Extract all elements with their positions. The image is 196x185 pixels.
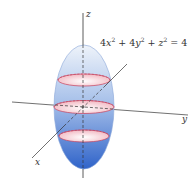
ellipsoid-equation: 4x2 + 4y2 + z2 = 4 [100, 36, 187, 48]
z-axis-label: z [86, 9, 91, 19]
cross-section-bottom [59, 130, 109, 142]
eq-rhs: = 4 [167, 37, 187, 48]
x-axis-label: x [35, 157, 40, 167]
eq-plus-2: + [144, 37, 158, 48]
ellipsoid-diagram [0, 0, 196, 185]
y-axis-label: y [182, 114, 187, 124]
eq-plus-1: + [115, 37, 129, 48]
cross-section-top [58, 74, 110, 86]
